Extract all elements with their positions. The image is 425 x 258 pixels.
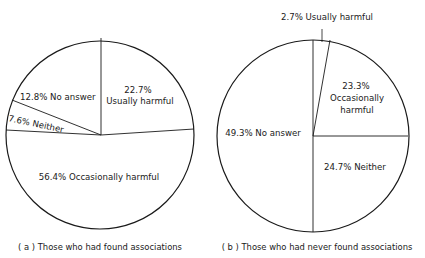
pie-b-neither-label: 24.7% Neither: [324, 162, 386, 172]
pie-b-occasionally-pct: 23.3%: [342, 81, 369, 91]
pie-b-no-answer-label: 49.3% No answer: [225, 128, 301, 138]
pie-b-usually-label: 2.7% Usually harmful: [281, 12, 373, 22]
pie-chart-a: [6, 38, 194, 229]
pie-a-usually-label: Usually harmful: [106, 96, 173, 106]
pie-a-divider-right: [101, 129, 194, 135]
pie-b-caption: ( b ) Those who had never found associat…: [222, 242, 413, 252]
pie-b-divider-usually: [313, 40, 330, 136]
pie-a-caption: ( a ) Those who had found associations: [18, 242, 182, 252]
pie-charts-figure: 22.7% Usually harmful 12.8% No answer 7.…: [0, 0, 425, 258]
pie-a-usually-pct: 22.7%: [124, 85, 151, 95]
pie-a-no-answer-label: 12.8% No answer: [20, 92, 96, 102]
pie-b-occasionally-l2: harmful: [340, 105, 373, 115]
pie-a-occasionally-label: 56.4% Occasionally harmful: [39, 172, 159, 182]
pie-b-occasionally-l1: Occasionally: [330, 93, 384, 103]
